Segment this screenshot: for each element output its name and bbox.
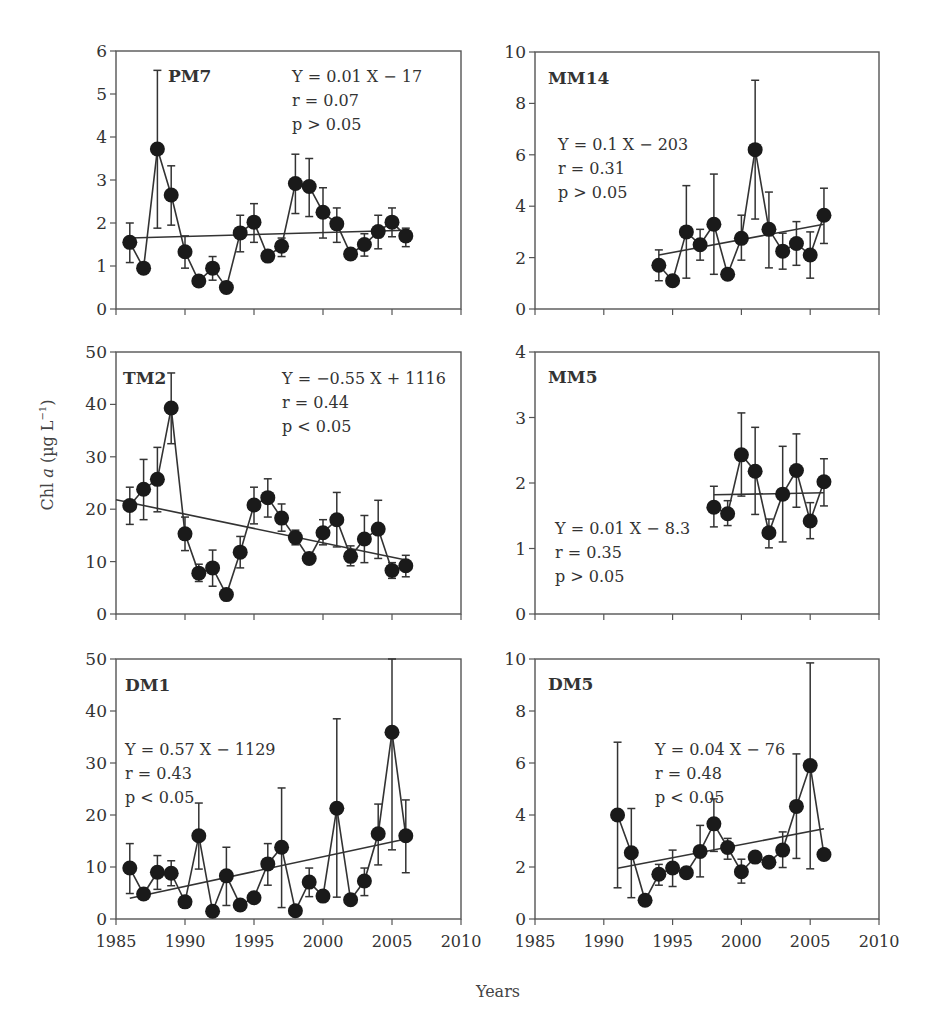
x-tick-label: 2005: [790, 932, 831, 951]
x-tick-label: 1995: [234, 932, 275, 951]
data-point: [288, 903, 303, 918]
data-point: [679, 865, 694, 880]
data-point: [385, 563, 400, 578]
x-tick-label: 1995: [652, 932, 693, 951]
data-point: [164, 401, 179, 416]
data-point: [706, 500, 721, 515]
data-point: [706, 816, 721, 831]
regression-equation: Y = −0.55 X + 1116: [281, 369, 446, 388]
data-point: [816, 847, 831, 862]
y-tick-label: 20: [85, 805, 107, 825]
y-tick-label: 5: [96, 84, 107, 104]
plot-frame: [535, 52, 879, 309]
data-point: [789, 236, 804, 251]
y-tick-label: 3: [515, 408, 526, 428]
data-point: [247, 890, 262, 905]
data-point: [178, 894, 193, 909]
y-tick-label: 40: [85, 394, 107, 414]
data-point: [385, 215, 400, 230]
p-value: p > 0.05: [292, 115, 361, 134]
panel-mm14: 0246810MM14Y = 0.1 X − 203r = 0.31p > 0.…: [504, 42, 879, 319]
y-tick-label: 4: [515, 805, 526, 825]
data-point: [205, 261, 220, 276]
y-tick-label: 0: [96, 909, 107, 929]
y-tick-label: 20: [85, 499, 107, 519]
data-point: [357, 237, 372, 252]
data-point: [164, 866, 179, 881]
y-tick-label: 30: [85, 753, 107, 773]
panel-title: MM5: [548, 367, 597, 387]
p-value: p < 0.05: [282, 417, 351, 436]
data-point: [371, 224, 386, 239]
correlation-r: r = 0.07: [292, 91, 359, 110]
data-point: [651, 258, 666, 273]
y-tick-label: 0: [515, 299, 526, 319]
panel-title: DM1: [125, 675, 170, 695]
data-point: [734, 447, 749, 462]
x-tick-label: 1985: [96, 932, 137, 951]
data-point: [789, 799, 804, 814]
data-point: [219, 587, 234, 602]
data-point: [398, 828, 413, 843]
y-tick-label: 10: [504, 42, 526, 62]
correlation-r: r = 0.48: [655, 764, 722, 783]
data-point: [247, 498, 262, 513]
y-tick-label: 3: [96, 170, 107, 190]
x-tick-label: 1990: [165, 932, 206, 951]
data-point: [748, 142, 763, 157]
y-tick-label: 10: [504, 649, 526, 669]
data-point: [357, 874, 372, 889]
data-point: [178, 244, 193, 259]
y-axis-label: Chl a (µg L−1): [37, 400, 56, 511]
data-point: [761, 525, 776, 540]
y-tick-label: 2: [515, 857, 526, 877]
data-point: [274, 511, 289, 526]
data-point: [693, 844, 708, 859]
data-point: [665, 861, 680, 876]
data-point: [329, 512, 344, 527]
correlation-r: r = 0.44: [282, 393, 349, 412]
data-point: [302, 875, 317, 890]
x-tick-label: 2010: [859, 932, 900, 951]
data-point: [122, 861, 137, 876]
data-point: [122, 498, 137, 513]
data-point: [219, 868, 234, 883]
plot-frame: [116, 352, 461, 614]
data-point: [150, 142, 165, 157]
p-value: p < 0.05: [125, 788, 194, 807]
data-point: [302, 179, 317, 194]
data-point: [233, 225, 248, 240]
data-point: [651, 867, 666, 882]
data-point: [274, 239, 289, 254]
data-point: [775, 244, 790, 259]
data-point: [371, 522, 386, 537]
data-point: [150, 472, 165, 487]
data-point: [775, 843, 790, 858]
correlation-r: r = 0.35: [555, 543, 622, 562]
data-point: [191, 828, 206, 843]
y-tick-label: 4: [515, 342, 526, 362]
data-point: [164, 188, 179, 203]
regression-equation: Y = 0.01 X − 8.3: [554, 519, 690, 538]
data-point: [316, 525, 331, 540]
y-tick-label: 50: [85, 649, 107, 669]
data-point: [398, 558, 413, 573]
data-point: [803, 513, 818, 528]
correlation-r: r = 0.31: [558, 159, 625, 178]
data-point: [260, 249, 275, 264]
figure-canvas: 0123456PM7Y = 0.01 X − 17r = 0.07p > 0.0…: [0, 0, 942, 1028]
y-tick-label: 1: [515, 539, 526, 559]
p-value: p < 0.05: [655, 788, 724, 807]
p-value: p > 0.05: [558, 183, 627, 202]
y-tick-label: 2: [515, 248, 526, 268]
data-point: [316, 205, 331, 220]
data-point: [136, 261, 151, 276]
data-point: [398, 228, 413, 243]
data-point: [178, 526, 193, 541]
data-point: [302, 551, 317, 566]
data-point: [316, 889, 331, 904]
y-tick-label: 2: [96, 213, 107, 233]
correlation-r: r = 0.43: [125, 764, 192, 783]
y-tick-label: 0: [96, 604, 107, 624]
y-tick-label: 6: [515, 753, 526, 773]
